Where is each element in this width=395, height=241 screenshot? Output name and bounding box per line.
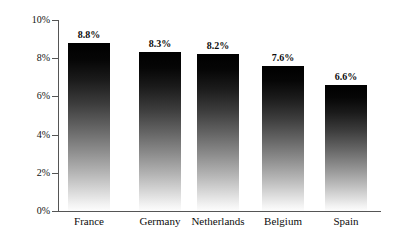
y-tick-label-6: 6% [10,91,50,101]
y-tick-mark-8 [52,58,58,59]
bar-belgium [262,66,304,211]
bar-spain [325,85,367,211]
y-tick-mark-4 [52,135,58,136]
y-tick-mark-6 [52,96,58,97]
bar-value-spain: 6.6% [316,71,376,82]
bar-value-belgium: 7.6% [253,52,313,63]
y-tick-mark-2 [52,173,58,174]
y-tick-label-2: 2% [10,168,50,178]
bar-germany [139,52,181,211]
y-tick-label-10: 10% [10,15,50,25]
bar-value-germany: 8.3% [130,38,190,49]
y-tick-label-4: 4% [10,130,50,140]
x-axis-label-spain: Spain [301,215,391,228]
y-tick-mark-0 [52,211,58,212]
bar-chart: 0% 2% 4% 6% 8% 10% 8.8% 8.3% 8.2% 7.6% 6… [0,0,395,241]
bar-netherlands [197,54,239,211]
y-tick-label-8: 8% [10,53,50,63]
plot-area: 0% 2% 4% 6% 8% 10% 8.8% 8.3% 8.2% 7.6% 6… [0,0,395,241]
y-tick-mark-10 [52,20,58,21]
bar-france [68,43,110,211]
bar-value-france: 8.8% [59,29,119,40]
bar-value-netherlands: 8.2% [188,40,248,51]
x-axis-line [58,211,381,212]
y-axis-line [58,20,59,211]
